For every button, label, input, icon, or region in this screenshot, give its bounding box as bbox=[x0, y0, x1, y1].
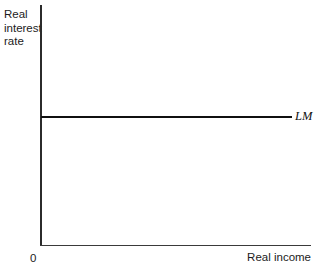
lm-curve bbox=[41, 116, 292, 118]
y-axis-label: Real interest rate bbox=[4, 8, 40, 49]
lm-curve-label: LM bbox=[295, 109, 312, 123]
x-axis-label: Real income bbox=[247, 251, 311, 263]
x-axis-line bbox=[40, 245, 311, 246]
lm-curve-figure: Real interest rate LM 0 Real income bbox=[0, 0, 318, 276]
y-axis-line bbox=[40, 5, 42, 246]
origin-label: 0 bbox=[30, 252, 36, 264]
